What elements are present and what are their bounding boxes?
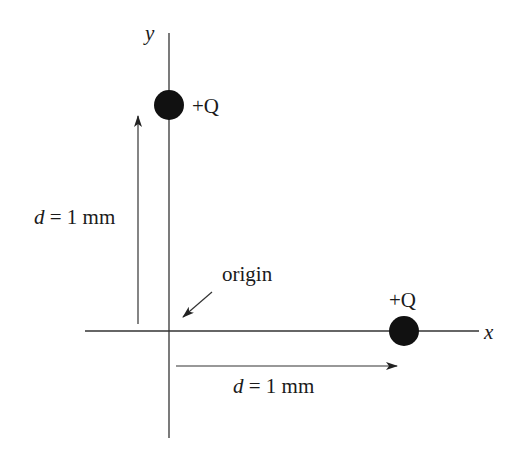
horizontal-distance-label: d = 1 mm: [233, 374, 314, 398]
charge-label-y: +Q: [192, 94, 219, 118]
y-axis-label: y: [143, 21, 155, 45]
x-axis-label: x: [483, 320, 494, 344]
diagram-canvas: y x +Q +Q d = 1 mm d = 1 mm origin: [0, 0, 516, 449]
origin-pointer-arrow: [183, 292, 212, 317]
charge-on-y-axis: [154, 90, 184, 120]
horizontal-distance-var: d: [233, 374, 244, 398]
vertical-distance-var: d: [34, 205, 45, 229]
horizontal-distance-eq: = 1 mm: [244, 374, 315, 398]
vertical-distance-label: d = 1 mm: [34, 205, 115, 229]
vertical-distance-eq: = 1 mm: [45, 205, 116, 229]
origin-label: origin: [222, 262, 273, 286]
charge-label-x: +Q: [389, 288, 416, 312]
charge-on-x-axis: [389, 316, 419, 346]
